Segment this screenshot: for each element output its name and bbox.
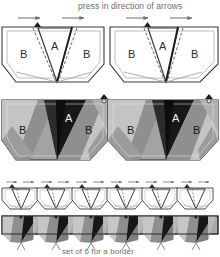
border-strip-unit <box>108 215 145 250</box>
figure-canvas: B A B B A B <box>0 0 220 257</box>
strip-tail <box>87 243 95 250</box>
strip-tail <box>192 243 200 250</box>
line-diagram-unit-1: B A B <box>2 22 104 82</box>
apex-marker-icon <box>144 22 151 27</box>
apex-marker-icon <box>149 184 155 188</box>
apex-marker-icon <box>100 94 108 99</box>
label-b-left: B <box>128 48 135 60</box>
apex-dot-icon <box>207 99 211 103</box>
label-b-right: B <box>193 124 200 136</box>
strip-unit <box>177 184 213 209</box>
label-a: A <box>51 40 59 52</box>
label-b-left: B <box>20 48 27 60</box>
line-diagram-unit-2: B A B <box>110 22 218 82</box>
apex-marker-icon <box>184 184 190 188</box>
apex-marker-icon <box>79 184 85 188</box>
label-b-left: B <box>127 124 134 136</box>
folding-instruction-figure: press in direction of arrows set of 6 fo… <box>0 0 220 257</box>
label-a: A <box>159 40 167 52</box>
row-shaded-diagrams: B A B B A B <box>2 94 218 160</box>
shaded-diagram-unit-1: B A B <box>2 94 108 160</box>
apex-marker-icon <box>34 22 41 27</box>
row-strip-shaded <box>2 215 218 250</box>
label-b-right: B <box>191 48 198 60</box>
border-strip-unit <box>178 215 216 250</box>
strip-unit <box>72 184 108 209</box>
strip-tail <box>52 243 60 250</box>
strip-tail <box>157 243 165 250</box>
border-strip-unit <box>73 215 110 250</box>
label-a: A <box>172 112 180 124</box>
label-a: A <box>65 112 73 124</box>
strip-tail <box>17 243 25 250</box>
border-strip-unit <box>38 215 75 250</box>
apex-marker-icon <box>44 184 50 188</box>
apex-marker-icon <box>205 94 213 99</box>
strip-unit <box>37 184 73 209</box>
border-strip-unit <box>2 215 40 250</box>
strip-unit <box>2 184 38 209</box>
strip-unit <box>107 184 143 209</box>
shaded-diagram-unit-2: B A B <box>108 94 218 160</box>
strip-unit <box>142 184 178 209</box>
label-b-right: B <box>83 48 90 60</box>
strip-tail <box>122 243 130 250</box>
row-line-diagrams: B A B B A B <box>2 18 218 82</box>
label-b-right: B <box>85 124 92 136</box>
apex-marker-icon <box>9 184 15 188</box>
apex-marker-icon <box>114 184 120 188</box>
apex-dot-icon <box>102 99 106 103</box>
label-b-left: B <box>19 124 26 136</box>
border-strip-unit <box>143 215 180 250</box>
row-strip-line <box>2 182 213 209</box>
